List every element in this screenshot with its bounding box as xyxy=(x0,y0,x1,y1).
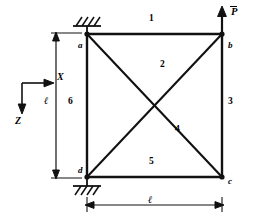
member-label-2: 2 xyxy=(160,60,165,70)
joint-c-dot xyxy=(219,174,224,179)
dimension-width xyxy=(85,197,224,212)
member-label-5: 5 xyxy=(149,157,154,167)
load-label-P-text: P xyxy=(231,7,237,18)
member-label-4: 4 xyxy=(175,125,180,135)
axis-x-arrowhead xyxy=(44,79,54,87)
support-a-fixed xyxy=(73,17,101,26)
coordinate-axes xyxy=(18,79,54,114)
dimension-label-height: ℓ xyxy=(44,96,48,106)
load-arrow-P xyxy=(218,6,227,34)
node-label-c: c xyxy=(228,177,232,186)
axis-label-z: Z xyxy=(15,116,21,126)
load-arrowhead xyxy=(218,6,227,17)
truss-diagram: a b c d 1 2 3 4 5 6 P ℓ ℓ X Z xyxy=(0,0,254,223)
dimension-label-width: ℓ xyxy=(148,195,152,205)
dimension-height xyxy=(51,32,82,179)
dim-width-arrow-right xyxy=(215,202,224,209)
load-label-P: P xyxy=(231,7,237,18)
member-label-6: 6 xyxy=(68,97,73,107)
axis-z-arrowhead xyxy=(18,104,26,114)
dim-width-arrow-left xyxy=(85,202,94,209)
node-label-a: a xyxy=(78,41,83,50)
member-label-1: 1 xyxy=(149,14,154,24)
node-label-d: d xyxy=(78,166,83,175)
truss-geometry xyxy=(0,0,254,223)
axis-label-x: X xyxy=(57,72,64,82)
node-label-b: b xyxy=(228,41,233,50)
support-d-fixed xyxy=(73,186,101,195)
member-label-3: 3 xyxy=(228,97,233,107)
